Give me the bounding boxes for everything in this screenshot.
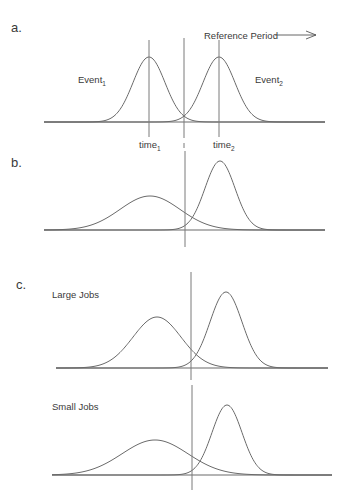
narrow-curve-distribution [56, 292, 328, 368]
reference-period-text: Reference Period [204, 30, 278, 41]
time2-label: time2 [213, 139, 235, 152]
time1-label: time1 [139, 139, 161, 152]
event1-label: Event1 [78, 74, 106, 87]
panel-c-large [56, 292, 328, 368]
distribution-diagram: a. b. c. Reference Period Event1 Event2 … [0, 0, 346, 501]
panel-b-letter: b. [11, 155, 22, 170]
panel-c-letter: c. [16, 277, 26, 292]
reference-period-label: Reference Period [204, 30, 316, 41]
small-jobs-label: Small Jobs [52, 401, 99, 412]
event2-label: Event2 [255, 74, 283, 87]
panel-a-letter: a. [11, 20, 22, 35]
large-jobs-label: Large Jobs [52, 289, 99, 300]
curves-and-axes [44, 38, 332, 490]
